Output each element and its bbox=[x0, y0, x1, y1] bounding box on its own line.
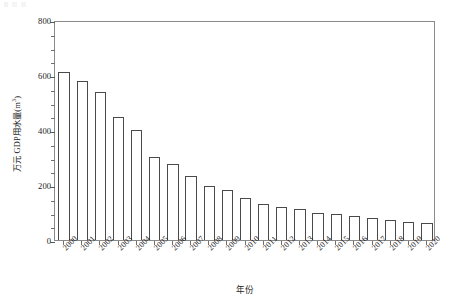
y-axis-tick-label: 600 bbox=[25, 72, 51, 81]
bar bbox=[331, 214, 342, 240]
x-axis-tick-labels: 2000200120022003200420052006200720082009… bbox=[54, 246, 435, 286]
bar bbox=[113, 117, 124, 240]
bar bbox=[222, 190, 233, 240]
bar bbox=[258, 204, 269, 240]
bar bbox=[276, 207, 287, 240]
y-axis-tick-labels: 0200400600800 bbox=[20, 0, 51, 302]
bar bbox=[240, 198, 251, 240]
bar bbox=[294, 209, 305, 240]
y-axis-tick-label: 400 bbox=[25, 127, 51, 136]
x-axis-title: 年份 bbox=[54, 283, 435, 295]
plot-area bbox=[54, 21, 435, 241]
y-axis-tick-label: 0 bbox=[25, 237, 51, 246]
y-axis-tick-label: 800 bbox=[25, 17, 51, 26]
bar bbox=[185, 176, 196, 240]
bar bbox=[95, 92, 106, 240]
y-axis-tick-label: 200 bbox=[25, 182, 51, 191]
bar bbox=[385, 220, 396, 240]
bar bbox=[349, 216, 360, 240]
y-axis-title-superscript: 3 bbox=[11, 99, 17, 102]
bar bbox=[204, 186, 215, 240]
chart-figure: 万元 GDP用水量(m3) 0200400600800 200020012002… bbox=[0, 0, 450, 302]
bar bbox=[58, 72, 69, 240]
bar bbox=[367, 218, 378, 240]
bar-series bbox=[55, 22, 434, 240]
bar bbox=[77, 81, 88, 241]
bar bbox=[131, 130, 142, 240]
bar bbox=[403, 222, 414, 240]
bar bbox=[312, 213, 323, 241]
bar bbox=[149, 157, 160, 240]
bar bbox=[167, 164, 178, 240]
